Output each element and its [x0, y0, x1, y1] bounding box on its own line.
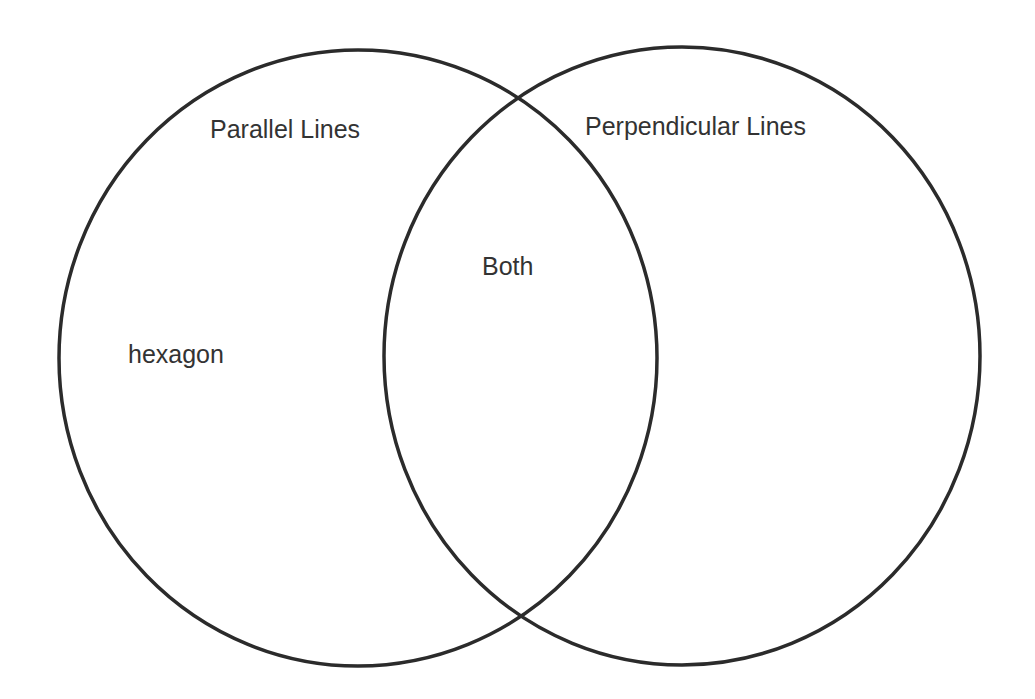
- set-label-perpendicular-lines: Perpendicular Lines: [585, 114, 806, 139]
- set-label-parallel-lines: Parallel Lines: [210, 117, 360, 142]
- venn-diagram: Parallel Lines Perpendicular Lines Both …: [0, 0, 1035, 699]
- intersection-label-both: Both: [482, 254, 533, 279]
- item-hexagon: hexagon: [128, 342, 224, 367]
